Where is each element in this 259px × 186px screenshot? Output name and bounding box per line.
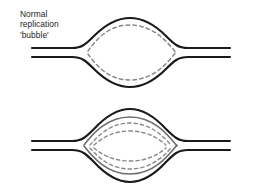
nascent-strand-inner-upper xyxy=(94,131,166,145)
replication-bubble-figure: Normal replication 'bubble' Additional r… xyxy=(0,0,259,186)
lower-parental-strand xyxy=(32,150,230,182)
caption-line: Normal xyxy=(20,9,59,19)
panel-additional-round: Additional round of replication xyxy=(0,93,259,186)
upper-parental-strand xyxy=(32,109,230,141)
nascent-strand-inner-lower xyxy=(94,148,166,161)
additional-round-diagram xyxy=(0,93,259,186)
panel-normal-replication: Normal replication 'bubble' xyxy=(0,0,259,93)
nascent-strand-outer-lower xyxy=(90,148,171,169)
upper-parental-strand xyxy=(32,18,230,48)
caption-normal-replication: Normal replication 'bubble' xyxy=(20,9,59,40)
lower-parental-strand xyxy=(32,57,230,87)
caption-line: replication xyxy=(20,19,59,29)
caption-line: 'bubble' xyxy=(20,30,59,40)
